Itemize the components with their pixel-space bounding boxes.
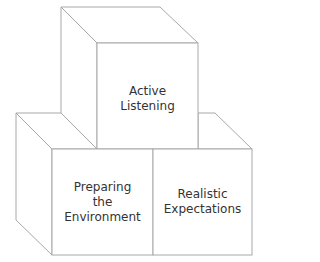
label-line: Preparing — [52, 180, 153, 195]
bottom-right-block-label: Realistic Expectations — [153, 187, 252, 217]
bottom-left-block-label: Preparing the Environment — [52, 180, 153, 225]
label-line: Listening — [97, 99, 198, 114]
right-cube-top-face — [198, 113, 252, 149]
label-line: the — [52, 195, 153, 210]
top-block-label: Active Listening — [97, 84, 198, 114]
label-line: Environment — [52, 210, 153, 225]
label-line: Active — [97, 84, 198, 99]
label-line: Realistic — [153, 187, 252, 202]
label-line: Expectations — [153, 202, 252, 217]
